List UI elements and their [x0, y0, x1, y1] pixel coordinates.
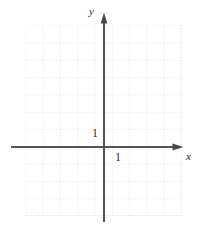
x-axis-label: x	[186, 151, 191, 162]
y-axis-label: y	[89, 6, 94, 17]
x-axis-unit-tick-label: 1	[115, 151, 121, 163]
y-axis-arrow-icon	[101, 13, 108, 24]
coordinate-grid-figure: y x 1 1	[0, 0, 200, 236]
y-axis-unit-tick-label: 1	[92, 127, 98, 139]
grid-and-axes-canvas	[0, 0, 200, 236]
